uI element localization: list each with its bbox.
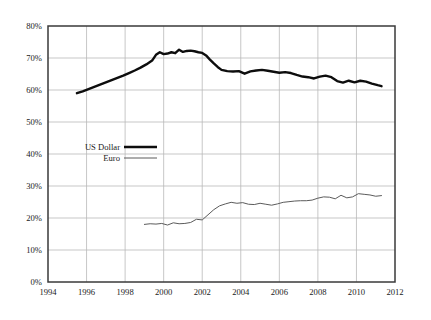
y-axis-tick-label: 20% <box>26 213 42 223</box>
y-axis-tick-label: 70% <box>26 53 42 63</box>
y-axis-tick-label: 30% <box>26 181 42 191</box>
x-axis-tick-label: 2002 <box>194 287 211 297</box>
chart-background <box>0 0 431 320</box>
x-axis-tick-label: 1996 <box>78 287 96 297</box>
y-axis-tick-label: 40% <box>26 149 42 159</box>
x-axis-tick-label: 2000 <box>155 287 172 297</box>
y-axis-tick-label: 80% <box>26 21 42 31</box>
x-axis-tick-label: 2010 <box>348 287 365 297</box>
x-axis-tick-label: 2004 <box>232 287 250 297</box>
y-axis-tick-label: 10% <box>26 245 42 255</box>
x-axis-tick-label: 2006 <box>271 287 289 297</box>
y-axis-tick-label: 0% <box>31 277 42 287</box>
chart-canvas: 0%10%20%30%40%50%60%70%80% 1994199619982… <box>0 0 431 320</box>
legend-label-us-dollar: US Dollar <box>85 142 120 152</box>
x-axis-tick-label: 2012 <box>386 287 403 297</box>
x-axis-tick-label: 2008 <box>309 287 326 297</box>
x-axis-tick-label: 1998 <box>117 287 134 297</box>
y-axis-tick-label: 60% <box>26 85 42 95</box>
y-axis-tick-labels: 0%10%20%30%40%50%60%70%80% <box>26 21 42 287</box>
y-axis-tick-label: 50% <box>26 117 42 127</box>
legend-label-euro: Euro <box>103 153 120 163</box>
x-axis-tick-label: 1994 <box>39 287 57 297</box>
line-chart-container: 0%10%20%30%40%50%60%70%80% 1994199619982… <box>0 0 431 320</box>
